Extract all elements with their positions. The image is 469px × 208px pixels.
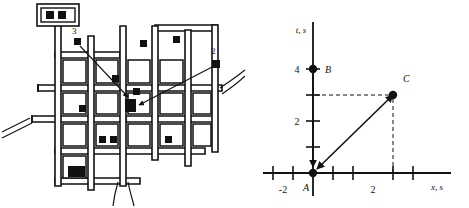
graph-vectors [313, 69, 393, 169]
building-b [173, 36, 180, 43]
city-map-svg: 3 2 1 [0, 0, 245, 208]
inset-square-1 [46, 11, 54, 19]
point-label-a: A [302, 182, 310, 193]
map-label-3: 3 [72, 26, 77, 36]
building-e [133, 88, 140, 95]
point-c [389, 91, 397, 99]
x-tick-label-2: 2 [371, 184, 376, 195]
figure-root: 3 2 1 [0, 0, 469, 208]
y-axis-label: t, s [296, 25, 307, 35]
position-time-graph-svg: A B C -2 2 2 4 x, s t, s [245, 0, 469, 208]
point-a [309, 169, 317, 177]
y-tick-label-4: 4 [295, 64, 300, 75]
building-d [79, 105, 86, 112]
city-map-panel: 3 2 1 [0, 0, 245, 208]
building-h [165, 136, 172, 143]
graph-panel: A B C -2 2 2 4 x, s t, s [245, 0, 469, 208]
x-tick-label-neg2: -2 [279, 184, 287, 195]
map-river-left [2, 118, 32, 138]
building-1 [125, 99, 136, 112]
point-label-b: B [325, 64, 331, 75]
building-f [99, 136, 106, 143]
vector-c-a [317, 95, 393, 169]
map-label-2: 2 [211, 46, 216, 56]
x-axis-label: x, s [430, 182, 443, 192]
y-tick-label-2: 2 [295, 116, 300, 127]
map-label-1: 1 [124, 115, 129, 125]
building-a [140, 40, 147, 47]
graph-axes [263, 22, 451, 196]
building-g [110, 136, 117, 143]
map-inset-box [37, 4, 79, 26]
map-road-right [220, 70, 245, 94]
inset-square-2 [58, 11, 66, 19]
point-b [309, 65, 317, 73]
point-label-c: C [403, 73, 410, 84]
building-3 [74, 38, 81, 45]
graph-points [309, 65, 397, 177]
building-i [68, 166, 85, 177]
